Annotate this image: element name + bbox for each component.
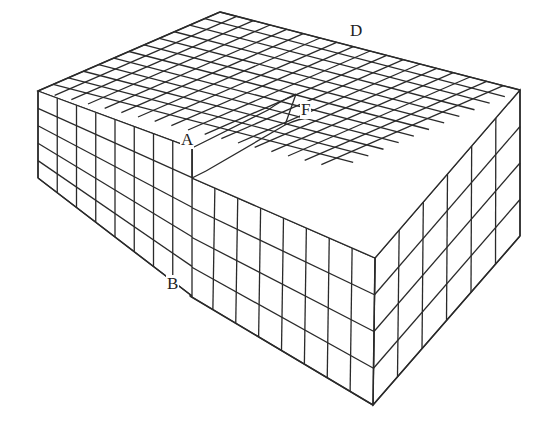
label-d: D (349, 22, 363, 40)
fault-block-diagram: A B D F (0, 0, 552, 425)
label-a: A (180, 131, 194, 149)
label-b: B (166, 275, 179, 293)
label-f: F (300, 101, 311, 119)
block-grid-drawing (0, 0, 552, 425)
